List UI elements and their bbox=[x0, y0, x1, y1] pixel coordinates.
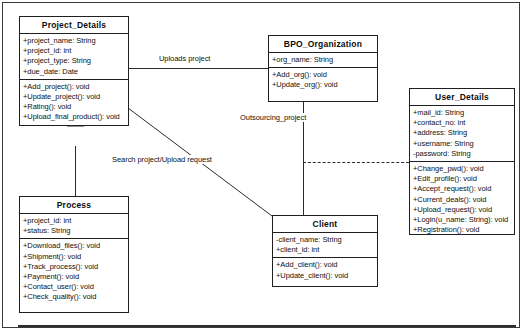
edge-process-generalization bbox=[75, 146, 76, 196]
class-methods-bpo-organization: +Add_org(): void +Update_org(): void bbox=[269, 68, 377, 92]
method-row: +Add_project(): void bbox=[23, 82, 127, 92]
method-row: +Current_deals(): void bbox=[413, 195, 513, 205]
attribute-row: +client_id: int bbox=[276, 245, 376, 255]
attribute-row: +project_name: String bbox=[23, 36, 127, 46]
class-attributes-client: -client_name: String +client_id: int bbox=[273, 233, 377, 258]
attribute-row: +address: String bbox=[413, 128, 513, 138]
method-row: +Update_client(): void bbox=[276, 271, 376, 281]
class-attributes-user-details: +mail_id: String +contact_no: int +addre… bbox=[410, 106, 514, 162]
attribute-row: +project_id: int bbox=[23, 216, 127, 226]
attribute-row: +due_date: Date bbox=[23, 67, 127, 77]
method-row: +Add_org(): void bbox=[272, 70, 376, 80]
method-row: +Rating(): void bbox=[23, 102, 127, 112]
class-name-process: Process bbox=[20, 197, 128, 214]
attribute-row: +org_name: String bbox=[272, 55, 376, 65]
edge-label-search-upload-request: Search project/Upload request bbox=[110, 155, 214, 164]
class-attributes-bpo-organization: +org_name: String bbox=[269, 53, 377, 68]
edge-label-outsourcing-project: Outsourcing_project bbox=[238, 113, 308, 122]
method-row: +Update_project(): void bbox=[23, 92, 127, 102]
edge-label-uploads-project: Uploads project bbox=[157, 54, 212, 63]
class-box-project-details[interactable]: Project_Details +project_name: String +p… bbox=[19, 16, 129, 126]
method-row: +Download_files(): void bbox=[23, 241, 127, 251]
method-row: +Track_process(): void bbox=[23, 262, 127, 272]
class-name-project-details: Project_Details bbox=[20, 17, 128, 34]
attribute-row: +mail_id: String bbox=[413, 108, 513, 118]
method-row: +Contact_user(): void bbox=[23, 282, 127, 292]
edge-client-user-details bbox=[303, 162, 409, 163]
class-attributes-process: +project_id: int +status: String bbox=[20, 214, 128, 239]
uml-class-diagram-canvas: Uploads project Outsourcing_project Sear… bbox=[0, 0, 524, 334]
class-box-bpo-organization[interactable]: BPO_Organization +org_name: String +Add_… bbox=[268, 35, 378, 102]
method-row: +Shipment(): void bbox=[23, 252, 127, 262]
class-attributes-project-details: +project_name: String +project_id: int +… bbox=[20, 34, 128, 80]
class-name-bpo-organization: BPO_Organization bbox=[269, 36, 377, 53]
method-row: +Registration(): void bbox=[413, 225, 513, 235]
attribute-row: -password: String bbox=[413, 149, 513, 159]
method-row: +Check_quality(): void bbox=[23, 292, 127, 302]
method-row: +Accept_request(): void bbox=[413, 184, 513, 194]
class-box-client[interactable]: Client -client_name: String +client_id: … bbox=[272, 215, 378, 287]
class-name-client: Client bbox=[273, 216, 377, 233]
method-row: +Update_org(): void bbox=[272, 80, 376, 90]
method-row: +Payment(): void bbox=[23, 272, 127, 282]
method-row: +Add_client(): void bbox=[276, 260, 376, 270]
method-row: +Login(u_name: String): void bbox=[413, 215, 513, 225]
class-methods-project-details: +Add_project(): void +Update_project(): … bbox=[20, 80, 128, 125]
attribute-row: +project_id: int bbox=[23, 46, 127, 56]
method-row: +Upload_final_product(): void bbox=[23, 112, 127, 122]
attribute-row: +username: String bbox=[413, 139, 513, 149]
method-row: +Change_pwd(): void bbox=[413, 164, 513, 174]
class-methods-process: +Download_files(): void +Shipment(): voi… bbox=[20, 239, 128, 304]
class-methods-user-details: +Change_pwd(): void +Edit_profile(): voi… bbox=[410, 162, 514, 237]
attribute-row: +project_type: String bbox=[23, 56, 127, 66]
attribute-row: +status: String bbox=[23, 226, 127, 236]
class-name-user-details: User_Details bbox=[410, 89, 514, 106]
method-row: +Edit_profile(): void bbox=[413, 174, 513, 184]
attribute-row: -client_name: String bbox=[276, 235, 376, 245]
class-box-process[interactable]: Process +project_id: int +status: String… bbox=[19, 196, 129, 313]
class-methods-client: +Add_client(): void +Update_client(): vo… bbox=[273, 258, 377, 282]
method-row: +Upload_request(): void bbox=[413, 205, 513, 215]
class-box-user-details[interactable]: User_Details +mail_id: String +contact_n… bbox=[409, 88, 515, 235]
attribute-row: +contact_no: int bbox=[413, 118, 513, 128]
